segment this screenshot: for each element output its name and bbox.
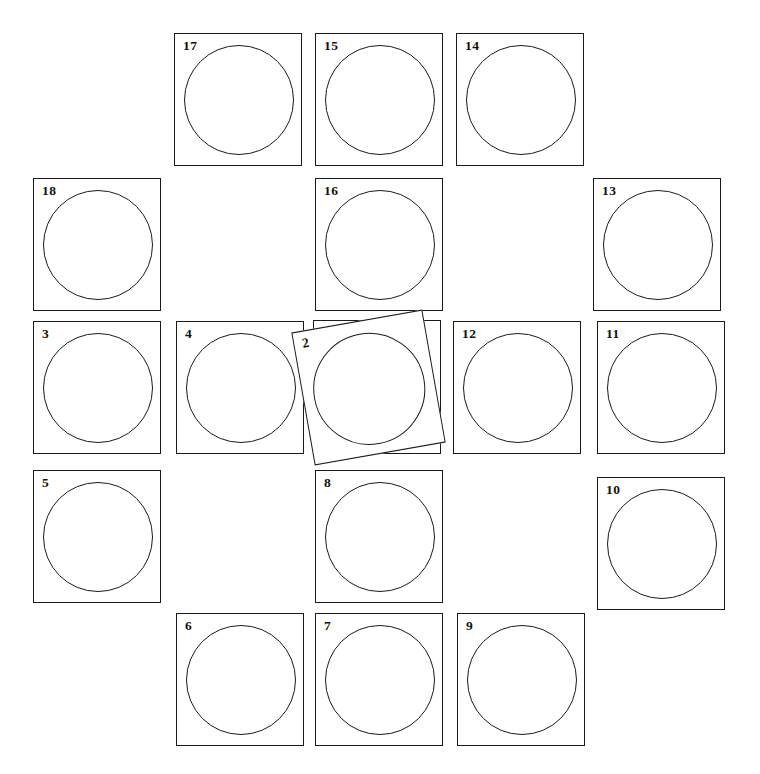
circle-in-card-10 — [607, 489, 717, 599]
card-15[interactable]: 15 — [315, 33, 443, 166]
circle-in-card-17 — [184, 45, 294, 155]
circle-in-card-11 — [607, 333, 717, 443]
circle-in-card-14 — [466, 45, 576, 155]
circle-in-card-9 — [467, 625, 577, 735]
card-number-label: 6 — [185, 619, 192, 633]
circle-in-card-4 — [186, 333, 296, 443]
card-17[interactable]: 17 — [174, 33, 302, 166]
card-number-label: 9 — [466, 619, 473, 633]
circle-in-card-18 — [43, 190, 153, 300]
card-14[interactable]: 14 — [456, 33, 584, 166]
card-12[interactable]: 12 — [453, 321, 581, 454]
circle-in-card-6 — [186, 625, 296, 735]
card-6[interactable]: 6 — [176, 613, 304, 746]
card-number-label: 13 — [602, 184, 617, 198]
card-number-label: 15 — [324, 39, 339, 53]
card-number-label: 3 — [42, 327, 49, 341]
circle-in-card-16 — [325, 190, 435, 300]
circle-in-card-2 — [304, 324, 434, 454]
circle-in-card-15 — [325, 45, 435, 155]
card-number-label: 18 — [42, 184, 57, 198]
card-number-label: 11 — [606, 327, 620, 341]
card-number-label: 12 — [462, 327, 477, 341]
circle-in-card-12 — [463, 333, 573, 443]
card-spiral-figure: 123456789101112131415161718 — [0, 0, 760, 774]
card-number-label: 2 — [301, 336, 311, 351]
card-11[interactable]: 11 — [597, 321, 725, 454]
card-7[interactable]: 7 — [315, 613, 443, 746]
card-number-label: 10 — [606, 483, 621, 497]
card-18[interactable]: 18 — [33, 178, 161, 311]
circle-in-card-5 — [43, 482, 153, 592]
card-10[interactable]: 10 — [597, 477, 725, 610]
card-number-label: 4 — [185, 327, 192, 341]
card-2[interactable]: 2 — [291, 309, 445, 465]
circle-in-card-13 — [603, 190, 713, 300]
card-9[interactable]: 9 — [457, 613, 585, 746]
card-5[interactable]: 5 — [33, 470, 161, 603]
card-number-label: 14 — [465, 39, 480, 53]
card-number-label: 7 — [324, 619, 331, 633]
circle-in-card-8 — [325, 482, 435, 592]
card-number-label: 17 — [183, 39, 198, 53]
card-number-label: 5 — [42, 476, 49, 490]
card-number-label: 8 — [324, 476, 331, 490]
card-4[interactable]: 4 — [176, 321, 304, 454]
card-13[interactable]: 13 — [593, 178, 721, 311]
circle-in-card-3 — [43, 333, 153, 443]
card-16[interactable]: 16 — [315, 178, 443, 311]
card-8[interactable]: 8 — [315, 470, 443, 603]
card-number-label: 16 — [324, 184, 339, 198]
card-3[interactable]: 3 — [33, 321, 161, 454]
circle-in-card-7 — [325, 625, 435, 735]
